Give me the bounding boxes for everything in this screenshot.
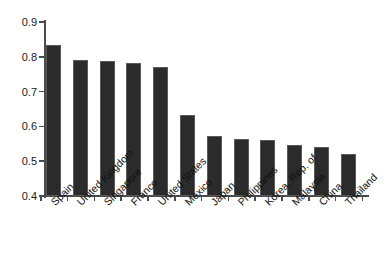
- y-axis-labels: 0.90.80.70.60.50.4: [0, 0, 37, 268]
- bar: [153, 67, 168, 196]
- x-tick-mark: [228, 196, 230, 201]
- y-tick-mark: [39, 21, 45, 23]
- y-tick-mark: [39, 91, 45, 93]
- y-tick-label: 0.7: [1, 86, 37, 97]
- bar-chart: 0.90.80.70.60.50.4 SpainUnited KingdomSi…: [0, 0, 384, 268]
- y-tick-mark: [39, 56, 45, 58]
- x-tick-mark: [362, 196, 364, 201]
- y-tick-mark: [39, 160, 45, 162]
- y-tick-label: 0.5: [1, 156, 37, 167]
- y-tick-label: 0.8: [1, 51, 37, 62]
- bar: [46, 45, 61, 196]
- x-tick-mark: [40, 196, 42, 201]
- y-tick-label: 0.9: [1, 17, 37, 28]
- y-tick-mark: [39, 126, 45, 128]
- y-tick-label: 0.6: [1, 121, 37, 132]
- bar: [73, 60, 88, 196]
- y-tick-label: 0.4: [1, 191, 37, 202]
- plot-area: [46, 22, 368, 196]
- x-tick-mark: [94, 196, 96, 201]
